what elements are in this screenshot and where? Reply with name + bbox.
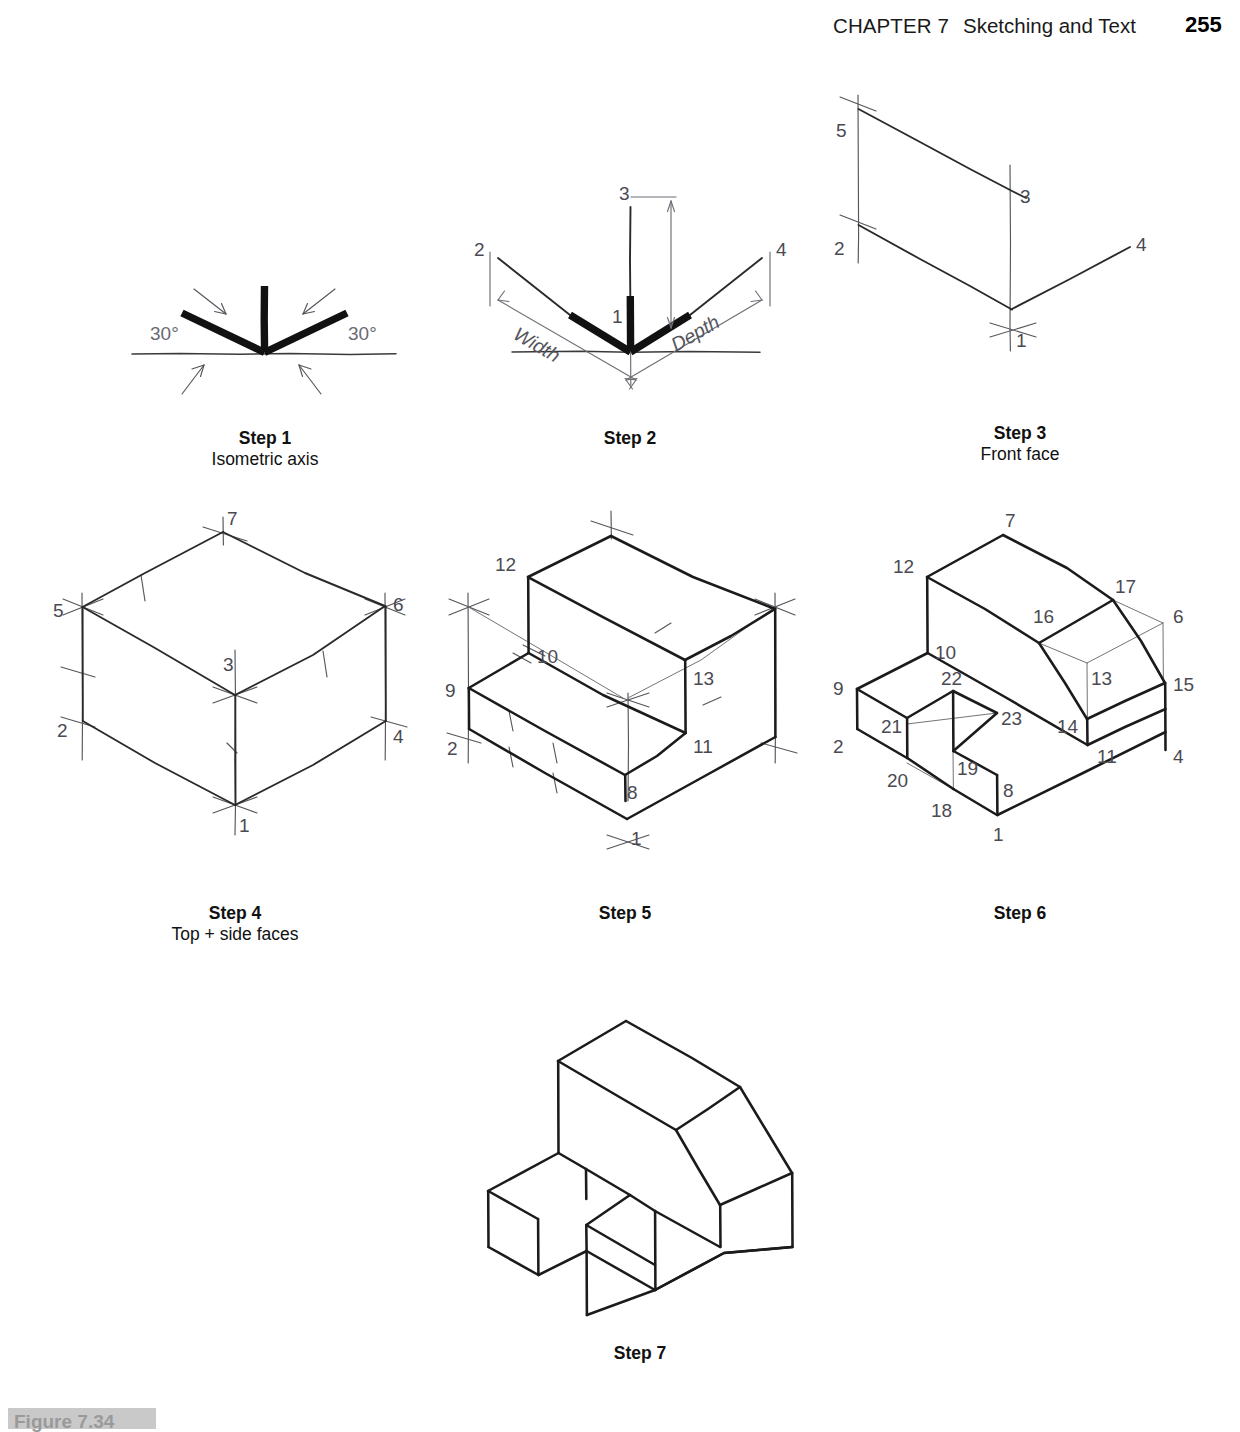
- edge-18-1: [953, 789, 997, 815]
- step-6-panel: 7 12 17 16 6 10 13 15 9 22 23 14 21 2 11…: [825, 505, 1215, 905]
- vertex-label-12: 12: [893, 556, 914, 577]
- step-4-caption: Step 4 Top + side faces: [45, 903, 425, 945]
- figure-sheet: 30° 30° Step 1 Isometric axis 3 2 4 1: [0, 0, 1240, 1432]
- step-7-caption: Step 7: [430, 1343, 850, 1364]
- construction-vertical-1-3: [1010, 165, 1011, 351]
- vertex-label-2: 2: [833, 736, 844, 757]
- step-2-panel: 3 2 4 1 Width Depth Step 2: [440, 180, 820, 470]
- axis-left-30: [182, 313, 265, 353]
- leader-arrows-bottom: [182, 365, 321, 394]
- edge-2-1: [469, 729, 627, 819]
- edge-upperface-right: [685, 609, 775, 660]
- vertex-label-13: 13: [1091, 668, 1112, 689]
- vertex-label-11: 11: [1097, 746, 1117, 767]
- step-1-panel: 30° 30° Step 1 Isometric axis: [120, 270, 410, 470]
- edge-5-3: [83, 607, 236, 695]
- edge-inner-shelf: [630, 1195, 655, 1211]
- angle-right-label: 30°: [348, 323, 377, 344]
- step-3-caption: Step 3 Front face: [830, 423, 1210, 465]
- edge-plat-bottom: [489, 1247, 539, 1275]
- step-3-subtitle: Front face: [830, 444, 1210, 465]
- step-4-title: Step 4: [45, 903, 425, 924]
- vertex-label-6: 6: [1173, 606, 1184, 627]
- vertex-label-17: 17: [1115, 576, 1136, 597]
- step-7-title: Step 7: [430, 1343, 850, 1364]
- construction-vertical-left: [468, 593, 469, 763]
- edge-10-9: [469, 653, 529, 688]
- step-1-subtitle: Isometric axis: [120, 449, 410, 470]
- vertex-label-23: 23: [1001, 708, 1022, 729]
- edge-9-8: [469, 688, 625, 775]
- ground-line: [132, 353, 396, 354]
- vertex-label-11: 11: [693, 736, 713, 757]
- vertex-label-14: 14: [1057, 716, 1079, 737]
- edge-platform-top-left: [488, 1153, 559, 1191]
- edge-7-17: [1003, 535, 1113, 600]
- vertex-label-5: 5: [836, 120, 847, 141]
- vertex-label-1: 1: [612, 306, 623, 327]
- step-5-title: Step 5: [435, 903, 815, 924]
- edge-chamfer-bottom: [720, 1173, 792, 1205]
- edge-notch-top-c: [586, 1195, 630, 1225]
- edge-plat-front: [488, 1191, 538, 1219]
- vertex-label-1: 1: [631, 828, 642, 849]
- edge-20-18: [907, 758, 953, 789]
- figure-caption-label: Figure 7.34: [14, 1411, 114, 1432]
- edge-9-21: [857, 689, 907, 718]
- edge-12-top: [528, 536, 611, 577]
- edge-top-front: [558, 1061, 676, 1130]
- edge-notch-inner-diag: [587, 1251, 655, 1290]
- axis-right-30: [265, 313, 348, 353]
- vertex-label-8: 8: [1003, 780, 1014, 801]
- edge-top-left: [558, 1021, 626, 1061]
- vertex-label-2: 2: [474, 239, 485, 260]
- edge-2-1: [859, 225, 1013, 310]
- edge-top-right-upper: [626, 1021, 740, 1087]
- edge-8-11: [625, 733, 686, 775]
- step-4-subtitle: Top + side faces: [45, 924, 425, 945]
- vertex-label-9: 9: [445, 680, 456, 701]
- step-3-title: Step 3: [830, 423, 1210, 444]
- vertex-label-2: 2: [57, 720, 68, 741]
- vertex-label-15: 15: [1173, 674, 1194, 695]
- vertex-label-7: 7: [227, 508, 238, 529]
- step-6-caption: Step 6: [825, 903, 1215, 924]
- width-label: Width: [510, 322, 564, 366]
- step-5-panel: 12 10 13 9 11 2 8 1 Step 5: [435, 505, 815, 905]
- tick-marks: [61, 527, 407, 813]
- vertex-label-4: 4: [776, 239, 787, 260]
- step-1-caption: Step 1 Isometric axis: [120, 428, 410, 470]
- final-isometric-object: [488, 1021, 793, 1315]
- vertex-label-21: 21: [881, 716, 902, 737]
- vertex-label-18: 18: [931, 800, 952, 821]
- edge-plat-bottom-right: [538, 1251, 586, 1275]
- edge-inner-shelf-up: [655, 1211, 720, 1247]
- edge-3-6: [235, 606, 385, 695]
- vertex-label-22: 22: [941, 668, 962, 689]
- vertex-label-1: 1: [1016, 330, 1027, 351]
- vertex-label-4: 4: [393, 726, 404, 747]
- vertex-label-2: 2: [447, 738, 458, 759]
- edge-chamfer-top: [676, 1087, 740, 1130]
- tick-marks: [840, 97, 1036, 337]
- edge-10-9: [857, 653, 928, 689]
- vertex-label-4: 4: [1173, 746, 1184, 767]
- depth-label: Depth: [667, 310, 723, 355]
- step-2-title: Step 2: [440, 428, 820, 449]
- height-dimension: [631, 197, 676, 328]
- vertex-label-1: 1: [993, 824, 1004, 845]
- edge-platform-top-right: [559, 1153, 587, 1169]
- edge-chamfer-right: [740, 1087, 792, 1173]
- edge-12-7: [927, 535, 1003, 577]
- vertex-label-3: 3: [1020, 186, 1031, 207]
- edge-bottom-right-slope: [655, 1247, 792, 1290]
- edge-1-4: [997, 732, 1165, 815]
- edge-5-3: [859, 109, 1027, 198]
- vertex-label-7: 7: [1005, 510, 1016, 531]
- vertex-label-19: 19: [957, 758, 978, 779]
- vertex-label-8: 8: [627, 782, 638, 803]
- step-7-panel: Step 7: [430, 975, 850, 1375]
- vertex-label-1: 1: [239, 815, 250, 836]
- vertex-label-3: 3: [619, 183, 630, 204]
- step-5-caption: Step 5: [435, 903, 815, 924]
